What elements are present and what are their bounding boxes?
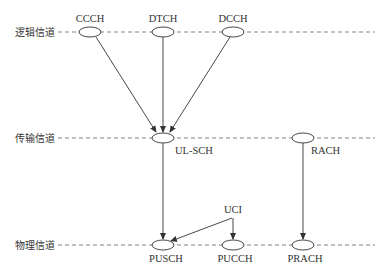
- edge-dcch-ulsch: [170, 37, 230, 132]
- edge-ccch-ulsch: [96, 37, 156, 132]
- label-uci: UCI: [224, 204, 243, 215]
- layer-label-physical: 物理信道: [15, 239, 55, 251]
- label-dtch: DTCH: [149, 13, 178, 24]
- node-ulsch: [152, 133, 174, 143]
- node-ccch: [79, 27, 101, 37]
- label-rach: RACH: [311, 145, 341, 156]
- node-rach: [292, 133, 314, 143]
- label-ulsch: UL-SCH: [175, 145, 213, 156]
- node-dtch: [152, 27, 174, 37]
- node-pucch: [222, 240, 244, 250]
- edge-uci-pusch: [171, 218, 232, 241]
- node-pusch: [152, 240, 174, 250]
- label-pusch: PUSCH: [149, 253, 183, 264]
- node-prach: [292, 240, 314, 250]
- layer-label-transport: 传输信道: [15, 132, 55, 144]
- label-prach: PRACH: [287, 253, 322, 264]
- label-dcch: DCCH: [218, 13, 248, 24]
- label-pucch: PUCCH: [217, 253, 252, 264]
- layer-label-logical: 逻辑信道: [15, 26, 55, 38]
- label-ccch: CCCH: [76, 13, 105, 24]
- node-dcch: [222, 27, 244, 37]
- channel-mapping-diagram: 逻辑信道 传输信道 物理信道 CCCH DTCH DCCH UL-SCH RAC…: [0, 0, 387, 277]
